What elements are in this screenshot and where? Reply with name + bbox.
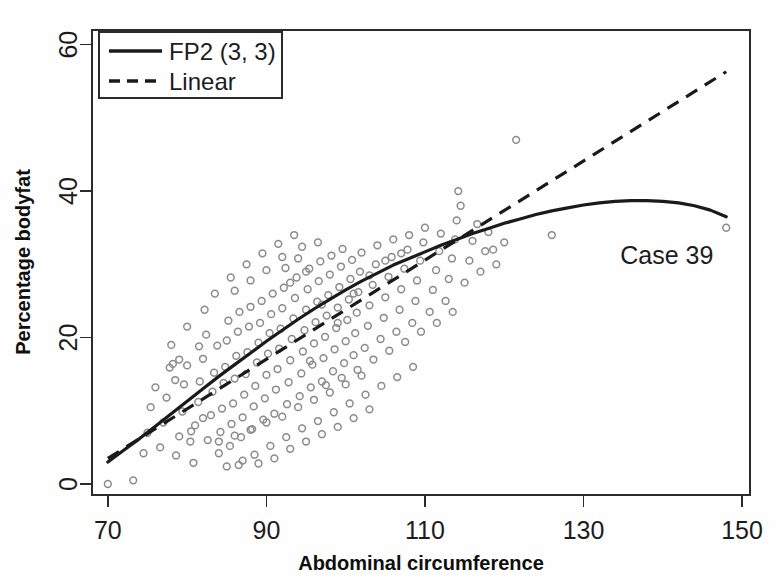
scatter-point [298, 370, 305, 377]
scatter-point [211, 369, 218, 376]
y-axis-title: Percentage bodyfat [12, 169, 34, 355]
scatter-point [247, 277, 254, 284]
scatter-point [235, 462, 242, 469]
chart-legend[interactable]: FP2 (3, 3)Linear [99, 32, 282, 98]
scatter-point [437, 230, 444, 237]
scatter-point [259, 250, 266, 257]
scatter-point [258, 298, 265, 305]
scatter-point [342, 338, 349, 345]
scatter-point [271, 410, 278, 417]
x-axis-ticks: 7090110130150 [94, 495, 763, 544]
scatter-point [457, 202, 464, 209]
scatter-point [323, 312, 330, 319]
scatter-point [353, 309, 360, 316]
scatter-point [293, 274, 300, 281]
legend-label-1[interactable]: Linear [169, 68, 236, 95]
figure-root: 7090110130150 0204060 Case 39 Abdominal … [0, 0, 781, 582]
scatter-point [358, 372, 365, 379]
scatter-point [163, 394, 170, 401]
scatter-point [466, 257, 473, 264]
scatter-point [287, 445, 294, 452]
scatter-point [201, 306, 208, 313]
scatter-point [228, 421, 235, 428]
scatter-point [311, 340, 318, 347]
scatter-point [275, 240, 282, 247]
scatter-point [406, 232, 413, 239]
scatter-point [181, 381, 188, 388]
scatter-point [352, 330, 359, 337]
scatter-point [203, 331, 210, 338]
scatter-point [251, 451, 258, 458]
scatter-point [513, 136, 520, 143]
scatter-point [357, 268, 364, 275]
scatter-point [200, 415, 207, 422]
scatter-point [140, 450, 147, 457]
scatter-point [433, 267, 440, 274]
scatter-point [279, 305, 286, 312]
scatter-point [223, 337, 230, 344]
scatter-point [420, 239, 427, 246]
scatter-point [482, 248, 489, 255]
scatter-point [223, 463, 230, 470]
scatter-point [404, 246, 411, 253]
scatter-point [349, 257, 356, 264]
scatter-point [255, 460, 262, 467]
scatter-point [173, 452, 180, 459]
scatter-point [301, 327, 308, 334]
scatter-point [104, 481, 111, 488]
scatter-point [295, 404, 302, 411]
scatter-point [263, 372, 270, 379]
scatter-point [172, 377, 179, 384]
scatter-point [267, 443, 274, 450]
scatter-point [230, 400, 237, 407]
scatter-point [195, 399, 202, 406]
scatter-point [366, 406, 373, 413]
scatter-point [288, 336, 295, 343]
y-tick-label: 0 [54, 477, 82, 491]
scatter-point [215, 438, 222, 445]
scatter-point [394, 374, 401, 381]
scatter-point [455, 188, 462, 195]
legend-label-0[interactable]: FP2 (3, 3) [169, 38, 276, 65]
scatter-point [320, 355, 327, 362]
scatter-point [315, 239, 322, 246]
scatter-point [296, 393, 303, 400]
scatter-point [176, 356, 183, 363]
annotation-case-label: Case 39 [620, 241, 713, 269]
x-tick-label: 150 [721, 516, 763, 544]
scatter-point [200, 355, 207, 362]
scatter-point [422, 224, 429, 231]
scatter-point [184, 323, 191, 330]
scatter-point [345, 296, 352, 303]
scatter-point [453, 217, 460, 224]
scatter-point [157, 444, 164, 451]
scatter-point [257, 320, 264, 327]
scatter-point [338, 263, 345, 270]
scatter-point [319, 431, 326, 438]
scatter-point [268, 311, 275, 318]
scatter-point [283, 434, 290, 441]
scatter-point [211, 290, 218, 297]
scatter-point [315, 418, 322, 425]
scatter-point [269, 290, 276, 297]
scatter-point [330, 409, 337, 416]
scatter-point [214, 342, 221, 349]
scatter-point [474, 221, 481, 228]
scatter-point [187, 438, 194, 445]
scatter-point [304, 286, 311, 293]
scatter-point [429, 287, 436, 294]
scatter-point [208, 412, 215, 419]
scatter-point [388, 254, 395, 261]
scatter-point [188, 428, 195, 435]
scatter-point [370, 356, 377, 363]
scatter-point [409, 320, 416, 327]
scatter-point [461, 279, 468, 286]
scatter-point [350, 415, 357, 422]
scatter-point [410, 363, 417, 370]
scatter-point [215, 450, 222, 457]
scatter-point [449, 309, 456, 316]
scatter-point [433, 320, 440, 327]
scatter-point [418, 328, 425, 335]
scatter-point [385, 273, 392, 280]
scatter-point [315, 278, 322, 285]
